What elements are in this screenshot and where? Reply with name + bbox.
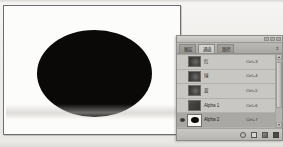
visibility-toggle-alpha-2[interactable] [177, 118, 187, 122]
channel-row-green[interactable]: 绿 Ctrl+4 [177, 70, 275, 85]
image-canvas[interactable] [4, 6, 180, 134]
tab-layers[interactable]: 图层 [179, 44, 196, 53]
thumbnail-image [189, 72, 200, 81]
scan-edge-bottom [0, 142, 283, 147]
channel-thumbnail [188, 85, 201, 96]
thumbnail-ellipse-shape [191, 117, 199, 123]
tab-channels[interactable]: 通道 [198, 44, 215, 53]
delete-channel-icon[interactable] [273, 132, 279, 138]
eye-icon [180, 118, 185, 122]
channel-list-container: 红 Ctrl+3 绿 Ctrl+4 [177, 54, 282, 128]
maximize-button[interactable] [270, 37, 275, 41]
black-ellipse-shape [37, 30, 152, 117]
channel-thumbnail [188, 115, 201, 126]
visibility-toggle-green[interactable] [177, 74, 187, 78]
create-new-channel-icon[interactable] [262, 132, 268, 138]
visibility-toggle-alpha-1[interactable] [177, 104, 187, 108]
channel-list-scrollbar[interactable]: ▲ ▼ [275, 54, 282, 128]
thumbnail-image [189, 86, 200, 95]
channels-panel-toolbar [177, 128, 282, 140]
thumbnail-cell-blue[interactable] [187, 85, 202, 96]
eye-icon [180, 60, 185, 64]
panel-tab-strip[interactable]: 图层 通道 路径 ≡ [177, 43, 282, 54]
visibility-toggle-blue[interactable] [177, 89, 187, 93]
save-selection-as-channel-icon[interactable] [251, 132, 257, 138]
channel-name-alpha-1: Alpha 1 [202, 103, 246, 109]
thumbnail-cell-green[interactable] [187, 71, 202, 82]
channel-row-alpha-2[interactable]: Alpha 2 Ctrl+7 [177, 113, 275, 128]
scan-edge-top [0, 0, 283, 3]
thumbnail-image [189, 101, 200, 110]
channel-shortcut-blue: Ctrl+5 [246, 88, 275, 94]
scrollbar-track[interactable] [276, 60, 282, 122]
thumbnail-cell-alpha-1[interactable] [187, 100, 202, 111]
load-channel-as-selection-icon[interactable] [240, 132, 246, 138]
channel-thumbnail [188, 100, 201, 111]
channel-shortcut-alpha-1: Ctrl+6 [246, 103, 275, 109]
scrollbar-thumb[interactable] [276, 62, 282, 108]
tab-paths[interactable]: 路径 [217, 44, 234, 53]
channel-name-green: 绿 [202, 73, 246, 79]
minimize-button[interactable] [264, 37, 269, 41]
close-button[interactable] [276, 37, 281, 41]
channel-name-red: 红 [202, 59, 246, 65]
channel-shortcut-green: Ctrl+4 [246, 73, 275, 79]
channel-name-blue: 蓝 [202, 88, 246, 94]
channel-shortcut-alpha-2: Ctrl+7 [246, 117, 275, 123]
panel-menu-icon[interactable]: ≡ [276, 46, 279, 51]
panel-titlebar[interactable] [177, 36, 282, 43]
channels-panel[interactable]: 图层 通道 路径 ≡ 红 Ctrl+3 [176, 35, 283, 141]
channel-thumbnail [188, 71, 201, 82]
channel-row-red[interactable]: 红 Ctrl+3 [177, 55, 275, 70]
eye-icon [180, 89, 185, 93]
document-window[interactable] [3, 5, 181, 135]
eye-icon [180, 74, 185, 78]
thumbnail-cell-red[interactable] [187, 56, 202, 67]
visibility-toggle-red[interactable] [177, 60, 187, 64]
channel-row-alpha-1[interactable]: Alpha 1 Ctrl+6 [177, 99, 275, 114]
channel-shortcut-red: Ctrl+3 [246, 59, 275, 65]
thumbnail-cell-alpha-2[interactable] [187, 115, 202, 126]
channel-thumbnail [188, 56, 201, 67]
eye-icon [180, 104, 185, 108]
channel-list[interactable]: 红 Ctrl+3 绿 Ctrl+4 [177, 54, 275, 128]
thumbnail-image [189, 57, 200, 66]
channel-name-alpha-2: Alpha 2 [202, 117, 246, 123]
channel-row-blue[interactable]: 蓝 Ctrl+5 [177, 84, 275, 99]
